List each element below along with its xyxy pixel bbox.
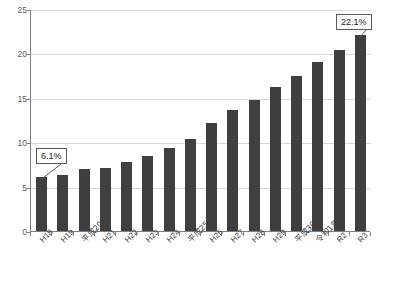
gridline <box>31 10 371 11</box>
callout-first-value: 6.1% <box>36 148 67 164</box>
bar <box>164 148 175 231</box>
x-axis-tick-mark <box>221 232 222 236</box>
x-axis-tick-mark <box>73 232 74 236</box>
callout-last-value: 22.1% <box>336 14 372 30</box>
bar <box>312 62 323 231</box>
bar <box>142 156 153 231</box>
x-axis-tick-mark <box>328 232 329 236</box>
x-axis-tick-label: R3 <box>356 231 370 245</box>
bar <box>334 50 345 231</box>
bar <box>121 162 132 231</box>
bar <box>227 110 238 231</box>
x-axis-tick-mark <box>200 232 201 236</box>
x-axis-tick-mark <box>51 232 52 236</box>
bar <box>57 175 68 231</box>
x-axis-tick-mark <box>94 232 95 236</box>
plot-area <box>30 10 370 232</box>
bar-chart: 0510152025 6.1% 22.1% H18H19平成20年H21H22H… <box>0 0 397 294</box>
y-axis-tick-label: 0 <box>3 228 27 236</box>
bar <box>355 35 366 231</box>
x-axis-tick-mark <box>306 232 307 236</box>
y-axis-tick-label: 20 <box>3 50 27 58</box>
bar <box>36 177 47 231</box>
x-axis-tick-mark <box>370 232 371 236</box>
x-axis-tick-mark <box>264 232 265 236</box>
bar <box>270 87 281 231</box>
y-axis: 0510152025 <box>0 0 27 242</box>
x-axis-tick-mark <box>179 232 180 236</box>
y-axis-tick-label: 25 <box>3 6 27 14</box>
x-axis-tick-mark <box>243 232 244 236</box>
bar <box>79 169 90 231</box>
x-axis-tick-mark <box>349 232 350 236</box>
bar <box>249 100 260 231</box>
bar <box>185 139 196 231</box>
x-axis-tick-mark <box>285 232 286 236</box>
gridline <box>31 54 371 55</box>
x-axis-tick-label: R2 <box>335 231 349 245</box>
x-axis-tick-mark <box>30 232 31 236</box>
y-axis-tick-label: 15 <box>3 95 27 103</box>
x-axis-tick-mark <box>115 232 116 236</box>
y-axis-tick-label: 5 <box>3 184 27 192</box>
x-axis-tick-mark <box>158 232 159 236</box>
bar <box>291 76 302 231</box>
x-axis-tick-mark <box>136 232 137 236</box>
y-axis-tick-label: 10 <box>3 139 27 147</box>
